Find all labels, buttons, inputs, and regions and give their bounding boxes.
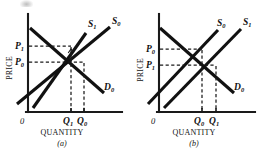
label-price-p1-sub: 1 [21, 45, 24, 52]
label-curve-s1-sub: 1 [93, 23, 96, 30]
label-curve-s0-sub: 0 [222, 22, 226, 29]
curve-demand-d0 [160, 28, 234, 93]
supply-demand-figure: S1 S0 D0 P1 P0 Q1 Q0 0 QUANTITY PRICE (a… [0, 0, 263, 149]
label-quantity-q0-sub: 0 [201, 120, 205, 127]
panel-b-plot: S0 S1 D0 P0 P1 Q0 Q1 0 QUANTITY PRICE (b… [131, 0, 263, 149]
label-curve-s1: S1 [243, 17, 252, 28]
origin-label: 0 [151, 116, 156, 126]
label-price-p0: P0 [15, 57, 25, 68]
panel-a-plot: S1 S0 D0 P1 P0 Q1 Q0 0 QUANTITY PRICE (a… [0, 0, 131, 149]
label-quantity-q0: Q0 [194, 116, 205, 127]
label-price-p0-sub: 0 [21, 61, 25, 68]
label-curve-s1-sub: 1 [248, 21, 251, 28]
label-curve-d0: D0 [103, 82, 115, 93]
label-price-p1: P1 [15, 41, 24, 52]
panel-b-caption: (b) [189, 139, 199, 148]
label-quantity-q0: Q0 [77, 116, 88, 127]
label-curve-d0: D0 [233, 82, 245, 93]
label-quantity-q1-sub: 1 [70, 120, 73, 127]
label-curve-s1: S1 [88, 19, 97, 30]
label-curve-s0: S0 [112, 16, 121, 27]
label-price-p0: P0 [146, 44, 156, 55]
label-price-p1: P1 [146, 60, 155, 71]
y-axis-label: PRICE [5, 56, 14, 80]
label-curve-d0-sub: 0 [111, 86, 115, 93]
label-curve-d0-sub: 0 [241, 86, 245, 93]
panel-a: S1 S0 D0 P1 P0 Q1 Q0 0 QUANTITY PRICE (a… [0, 0, 131, 149]
label-curve-s0: S0 [217, 18, 226, 29]
panel-b: S0 S1 D0 P0 P1 Q0 Q1 0 QUANTITY PRICE (b… [131, 0, 262, 149]
panel-a-caption: (a) [57, 139, 67, 148]
origin-label: 0 [20, 116, 25, 126]
label-price-p0-sub: 0 [152, 48, 156, 55]
label-quantity-q1: Q1 [63, 116, 73, 127]
label-curve-s0-sub: 0 [117, 20, 121, 27]
x-axis-label: QUANTITY [41, 128, 84, 137]
label-quantity-q0-sub: 0 [84, 120, 88, 127]
label-price-p1-sub: 1 [152, 64, 155, 71]
y-axis-label: PRICE [136, 58, 145, 82]
x-axis-label: QUANTITY [173, 128, 216, 137]
label-quantity-q1: Q1 [209, 116, 219, 127]
label-quantity-q1-sub: 1 [216, 120, 219, 127]
